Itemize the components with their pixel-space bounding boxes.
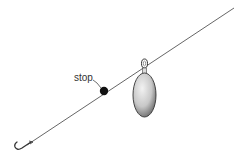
rig-drawing <box>0 0 246 160</box>
stop-leader-line <box>93 80 101 88</box>
fishing-line <box>27 8 234 145</box>
stop-label: stop <box>74 72 93 83</box>
stop-bead <box>100 87 108 95</box>
hook-icon <box>15 141 33 149</box>
diagram-canvas: stop <box>0 0 246 160</box>
sinker-weight <box>133 73 156 117</box>
